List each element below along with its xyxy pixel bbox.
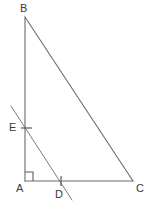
right-angle-mark-a [25, 172, 33, 181]
vertex-label-d: D [55, 189, 63, 200]
vertex-label-b: B [20, 3, 27, 14]
vertex-label-e: E [9, 122, 16, 133]
vertex-label-c: C [136, 183, 144, 194]
segment-bc [25, 17, 133, 181]
geometry-figure: B A C D E [0, 0, 151, 206]
vertex-label-a: A [16, 183, 23, 194]
geometry-canvas [0, 0, 151, 206]
